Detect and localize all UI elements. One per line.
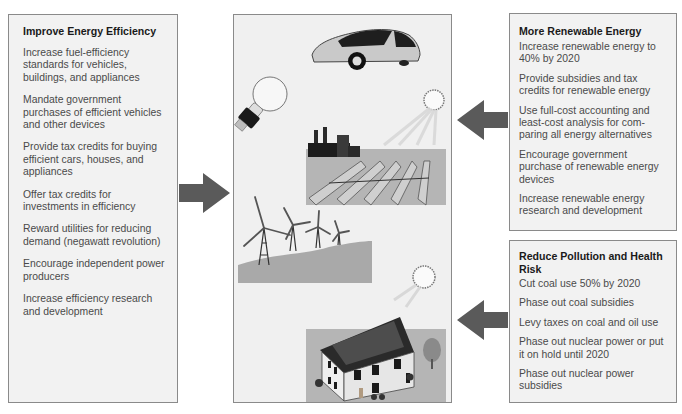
list-item: Reward utilities for reducing demand (ne… bbox=[23, 223, 167, 248]
list-item: Increase efficiency research and develop… bbox=[23, 293, 167, 318]
list-item: Mandate government purchases of efficien… bbox=[23, 94, 167, 131]
list-item: Encourage independent power producers bbox=[23, 258, 167, 283]
arrow-left-icon bbox=[457, 300, 509, 340]
list-item: Phase out coal subsidies bbox=[519, 297, 670, 309]
list-item: Phase out nuclear power or put it on hol… bbox=[519, 336, 670, 361]
center-illustrations bbox=[234, 15, 451, 402]
list-item: Encourage government purchase of renewab… bbox=[519, 149, 670, 186]
list-item: Increase renewable energy research and d… bbox=[519, 193, 670, 218]
illustration-panel bbox=[233, 14, 452, 403]
list-item: Phase out nuclear power subsidies bbox=[519, 368, 670, 393]
list-item: Offer tax credits for investments in eff… bbox=[23, 189, 167, 214]
light-bulb-icon bbox=[235, 77, 287, 131]
list-item: Use full-cost accounting and least-cost … bbox=[519, 105, 670, 142]
arrow-left-icon bbox=[457, 100, 509, 140]
list-item: Provide tax credits for buying efficient… bbox=[23, 141, 167, 178]
list-item: Provide subsidies and tax credits for re… bbox=[519, 73, 670, 98]
list-item: Levy taxes on coal and oil use bbox=[519, 317, 670, 329]
car-icon bbox=[312, 30, 420, 71]
more-renewable-energy-panel: More Renewable Energy Increase renewable… bbox=[509, 13, 677, 231]
panel-title: More Renewable Energy bbox=[519, 25, 670, 38]
list-item: Increase fuel-efficiency standards for v… bbox=[23, 47, 167, 84]
reduce-pollution-panel: Reduce Pollution and Health Risk Cut coa… bbox=[509, 240, 677, 403]
panel-title: Improve Energy Efficiency bbox=[23, 25, 167, 38]
solar-house-icon bbox=[306, 266, 446, 402]
solar-thermal-plant-icon bbox=[306, 90, 446, 205]
list-item: Cut coal use 50% by 2020 bbox=[519, 278, 670, 290]
improve-energy-efficiency-panel: Improve Energy Efficiency Increase fuel-… bbox=[8, 14, 178, 403]
panel-title: Reduce Pollution and Health Risk bbox=[519, 250, 670, 276]
arrow-right-icon bbox=[179, 173, 231, 213]
list-item: Increase renewable energy to 40% by 2020 bbox=[519, 41, 670, 66]
wind-turbines-icon bbox=[238, 197, 372, 283]
